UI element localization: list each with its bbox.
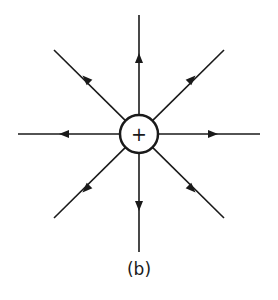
field-line-down-left [54, 147, 125, 218]
field-lines-diagram: + [0, 0, 278, 300]
field-line-down-right [153, 147, 224, 218]
plus-sign: + [131, 123, 147, 145]
figure-caption: (b) [0, 259, 278, 279]
arrowhead-icon [135, 201, 143, 211]
arrowhead-icon [208, 130, 218, 138]
field-line-up-right [153, 50, 224, 121]
positive-charge: + [120, 115, 158, 153]
field-line-up-left [54, 50, 125, 121]
arrowhead-icon [59, 130, 69, 138]
arrowhead-icon [135, 53, 143, 63]
